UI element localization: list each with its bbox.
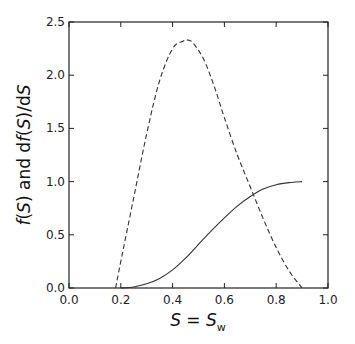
x-tick-label: 0.8 [267, 293, 286, 307]
x-tick-label: 1.0 [318, 293, 337, 307]
x-axis-label: S = Sw [170, 310, 226, 334]
axes-frame [69, 22, 328, 288]
y-tick-label: 0.0 [46, 281, 65, 295]
y-tick-label: 2.0 [46, 68, 65, 82]
x-tick-label: 0.6 [215, 293, 234, 307]
fractional-flow-curve [121, 182, 302, 288]
plot-area: 0.00.20.40.60.81.00.00.51.01.52.02.5 [46, 15, 338, 307]
x-tick-label: 0.4 [163, 293, 182, 307]
y-tick-label: 2.5 [46, 15, 65, 29]
curves [116, 40, 302, 288]
y-axis-label: f(S) and df(S)/dS [14, 84, 34, 225]
y-tick-label: 1.0 [46, 175, 65, 189]
x-tick-label: 0.2 [111, 293, 130, 307]
y-tick-label: 1.5 [46, 121, 65, 135]
derivative-curve [116, 40, 302, 288]
y-tick-label: 0.5 [46, 228, 65, 242]
chart: 0.00.20.40.60.81.00.00.51.01.52.02.5 S =… [0, 0, 355, 344]
x-tick-label: 0.0 [59, 293, 78, 307]
